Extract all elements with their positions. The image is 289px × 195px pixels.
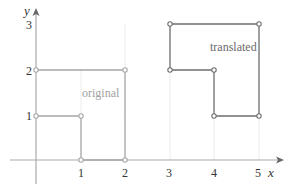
x-axis-label: x — [267, 165, 274, 180]
y-tick-1: 1 — [26, 109, 32, 123]
y-tick-2: 2 — [26, 64, 32, 78]
y-axis-label: y — [22, 3, 30, 18]
x-tick-1: 1 — [78, 166, 84, 180]
x-tick-4: 4 — [211, 166, 217, 180]
x-tick-2: 2 — [122, 166, 128, 180]
translated-label: translated — [210, 40, 257, 54]
x-tick-5: 5 — [255, 166, 261, 180]
translation-chart: original translated 1 2 3 4 5 1 2 3 x y — [0, 0, 289, 195]
x-tick-3: 3 — [166, 166, 172, 180]
original-label: original — [82, 86, 120, 100]
y-tick-3: 3 — [26, 18, 32, 32]
